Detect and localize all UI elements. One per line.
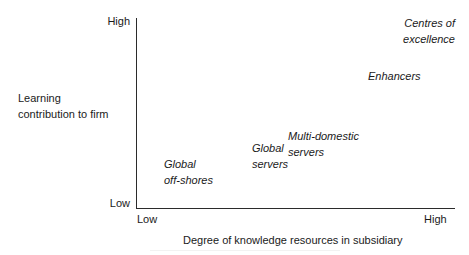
plot-label-line-2: off-shores [164,172,213,188]
plot-label-line-2: servers [252,156,288,172]
plot-label-line-1: Enhancers [368,68,421,84]
plot-label-line-1: Global [164,156,213,172]
plot-label-line-1: Centres of [403,15,455,31]
x-axis-title: Degree of knowledge resources in subsidi… [183,233,403,249]
plot-label-line-1: Multi-domestic [288,128,359,144]
plot-label-line-2: excellence [403,31,455,47]
scan-artifact [150,250,340,251]
y-axis-title-line-1: Learning [18,91,128,107]
knowledge-contribution-matrix: High Low Low High Learning contribution … [0,0,469,255]
plot-label-enhancers: Enhancers [368,68,421,84]
plot-label-global-servers: Global servers [252,140,288,172]
plot-label-centres-of-excellence: Centres of excellence [403,15,455,47]
y-axis-title-line-2: contribution to firm [18,107,128,123]
plot-label-line-1: Global [252,140,288,156]
y-axis-tick-high: High [107,14,130,30]
y-axis-line [136,18,137,209]
x-axis-line [136,208,455,209]
plot-label-line-2: servers [288,144,359,160]
plot-label-multi-domestic-servers: Multi-domestic servers [288,128,359,160]
y-axis-title: Learning contribution to firm [18,91,128,122]
plot-label-global-off-shores: Global off-shores [164,156,213,188]
y-axis-tick-low: Low [110,196,130,212]
x-axis-tick-high: High [424,212,447,228]
x-axis-tick-low: Low [137,212,157,228]
